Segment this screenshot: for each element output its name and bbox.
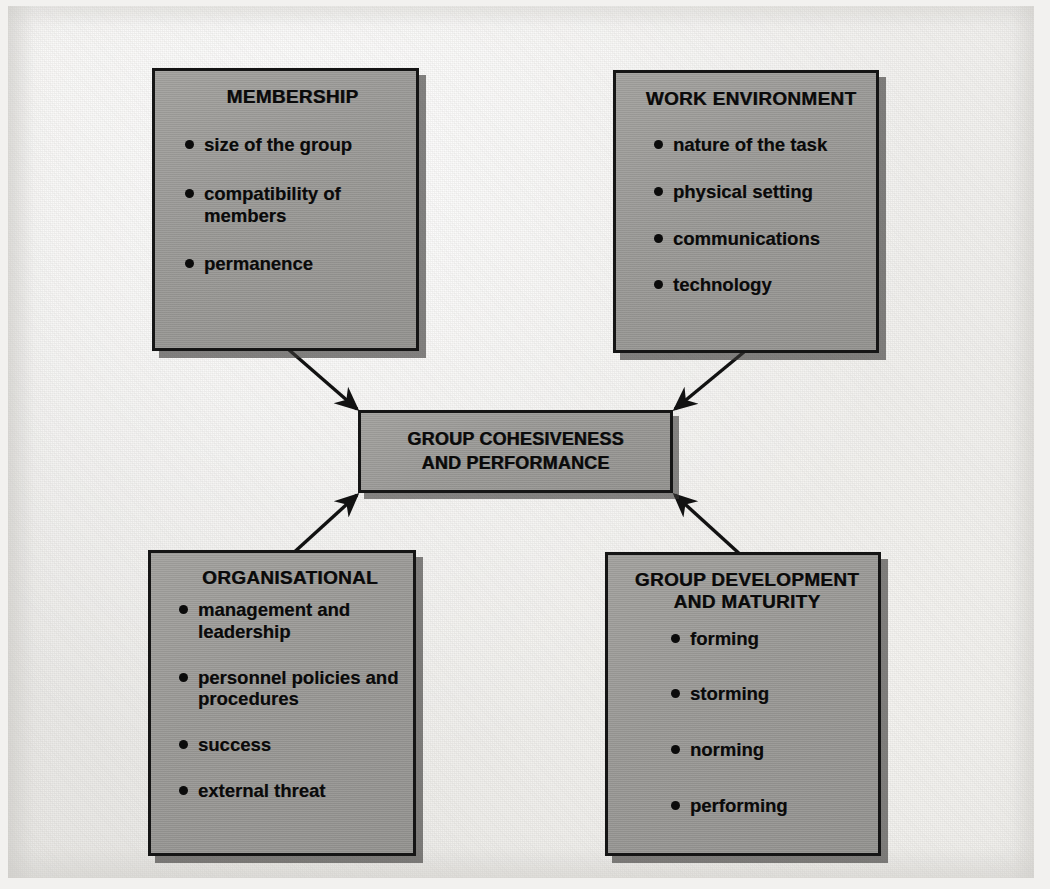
list-item-label: size of the group bbox=[185, 134, 400, 156]
list-item: physical setting bbox=[654, 181, 862, 203]
node-center-title-line2: AND PERFORMANCE bbox=[421, 453, 609, 473]
list-item-label: physical setting bbox=[654, 181, 862, 203]
list-item: personnel policies and procedures bbox=[179, 667, 401, 710]
diagram-canvas: MEMBERSHIP size of the group compatibili… bbox=[0, 0, 1050, 889]
list-item-label: permanence bbox=[185, 253, 400, 275]
list-item-label: technology bbox=[654, 274, 862, 296]
list-item-label: nature of the task bbox=[654, 134, 862, 156]
node-group-cohesiveness-and-performance[interactable]: GROUP COHESIVENESS AND PERFORMANCE bbox=[358, 410, 673, 493]
list-item: technology bbox=[654, 274, 862, 296]
bullet-icon bbox=[671, 801, 680, 810]
node-work-environment[interactable]: WORK ENVIRONMENT nature of the task phys… bbox=[613, 70, 879, 353]
list-item: external threat bbox=[179, 780, 401, 802]
list-item-label: norming bbox=[671, 739, 866, 761]
list-item: compatibility of members bbox=[185, 183, 400, 226]
bullet-icon bbox=[671, 634, 680, 643]
list-item-label: compatibility of members bbox=[185, 183, 400, 226]
node-organisational-items: management and leadership personnel poli… bbox=[179, 599, 401, 801]
list-item-label: management and leadership bbox=[179, 599, 401, 642]
bullet-icon bbox=[179, 786, 188, 795]
list-item: nature of the task bbox=[654, 134, 862, 156]
list-item: success bbox=[179, 734, 401, 756]
list-item-label: storming bbox=[671, 683, 866, 705]
node-center-title-line1: GROUP COHESIVENESS bbox=[407, 429, 623, 449]
node-organisational[interactable]: ORGANISATIONAL management and leadership… bbox=[148, 550, 416, 856]
list-item-label: external threat bbox=[179, 780, 401, 802]
node-group-development-title-line2: AND MATURITY bbox=[674, 591, 821, 612]
node-group-development-items: forming storming norming performing bbox=[628, 628, 866, 817]
list-item: management and leadership bbox=[179, 599, 401, 642]
list-item: permanence bbox=[185, 253, 400, 275]
list-item: storming bbox=[671, 683, 866, 705]
list-item-label: personnel policies and procedures bbox=[179, 667, 401, 710]
bullet-icon bbox=[185, 189, 194, 198]
node-membership-items: size of the group compatibility of membe… bbox=[185, 134, 400, 275]
bullet-icon bbox=[654, 187, 663, 196]
list-item-label: forming bbox=[671, 628, 866, 650]
node-center-title: GROUP COHESIVENESS AND PERFORMANCE bbox=[407, 428, 623, 475]
node-membership[interactable]: MEMBERSHIP size of the group compatibili… bbox=[152, 68, 419, 351]
list-item-label: communications bbox=[654, 228, 862, 250]
list-item-label: success bbox=[179, 734, 401, 756]
bullet-icon bbox=[179, 673, 188, 682]
list-item: size of the group bbox=[185, 134, 400, 156]
node-group-development-title: GROUP DEVELOPMENT AND MATURITY bbox=[628, 569, 866, 614]
node-group-development-title-line1: GROUP DEVELOPMENT bbox=[635, 569, 859, 590]
node-group-development-and-maturity[interactable]: GROUP DEVELOPMENT AND MATURITY forming s… bbox=[605, 552, 881, 856]
bullet-icon bbox=[654, 234, 663, 243]
node-organisational-title: ORGANISATIONAL bbox=[179, 567, 401, 589]
list-item: performing bbox=[671, 795, 866, 817]
node-work-environment-title: WORK ENVIRONMENT bbox=[640, 88, 862, 110]
list-item: forming bbox=[671, 628, 866, 650]
bullet-icon bbox=[179, 740, 188, 749]
list-item: norming bbox=[671, 739, 866, 761]
list-item: communications bbox=[654, 228, 862, 250]
list-item-label: performing bbox=[671, 795, 866, 817]
node-membership-title: MEMBERSHIP bbox=[185, 86, 400, 108]
node-work-environment-items: nature of the task physical setting comm… bbox=[640, 134, 862, 296]
